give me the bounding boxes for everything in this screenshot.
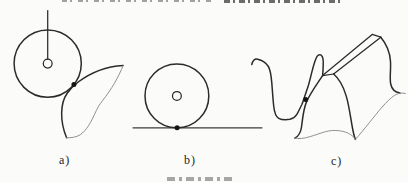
left-tooth-profile — [252, 55, 324, 120]
panel-c-drawing — [252, 34, 406, 139]
panel-label-b: b) — [184, 153, 196, 168]
lobe-profile-front-flank — [62, 65, 124, 137]
tooth-top-right-edge — [334, 37, 381, 74]
panel-a-drawing — [14, 11, 123, 138]
panel-label-c: c) — [331, 154, 342, 169]
contact-point-dot-a — [71, 82, 76, 87]
panel-b-drawing — [133, 64, 262, 130]
contact-point-dot-c — [303, 97, 308, 102]
contact-point-dot-b — [175, 125, 180, 130]
center-hole — [43, 59, 52, 68]
roller-circle — [145, 64, 209, 128]
tooth-right-flank — [334, 74, 356, 139]
center-hole — [173, 92, 182, 101]
tooth-top-left-edge — [323, 34, 373, 75]
panel-label-a: a) — [59, 153, 70, 168]
textbook-figure: a) b) c) — [0, 0, 408, 182]
tooth-back-flank — [381, 37, 400, 93]
lobe-profile-back-flank — [67, 65, 124, 137]
tooth-top-back-edge — [372, 34, 381, 37]
